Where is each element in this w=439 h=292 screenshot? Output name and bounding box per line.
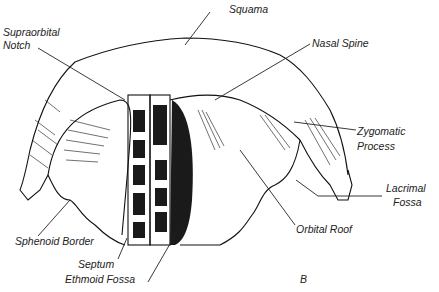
label-lacrimal-fossa-line1: Lacrimal: [386, 182, 426, 194]
label-nasal-spine: Nasal Spine: [312, 37, 369, 49]
label-orbital-roof: Orbital Roof: [296, 223, 352, 235]
label-septum: Septum: [78, 258, 114, 270]
label-supraorbital-notch-line1: Supraorbital: [3, 26, 60, 38]
label-sphenoid-border: Sphenoid Border: [15, 235, 94, 247]
label-squama: Squama: [229, 3, 268, 15]
label-zygomatic-process-line1: Zygomatic: [357, 125, 405, 137]
label-supraorbital-notch-line2: Notch: [3, 39, 30, 51]
label-ethmoid-fossa: Ethmoid Fossa: [65, 273, 135, 285]
panel-letter: B: [300, 273, 307, 285]
label-lacrimal-fossa-line2: Fossa: [393, 196, 422, 208]
label-zygomatic-process-line2: Process: [357, 140, 395, 152]
anatomical-diagram: Squama Supraorbital Notch Nasal Spine Zy…: [0, 0, 439, 292]
